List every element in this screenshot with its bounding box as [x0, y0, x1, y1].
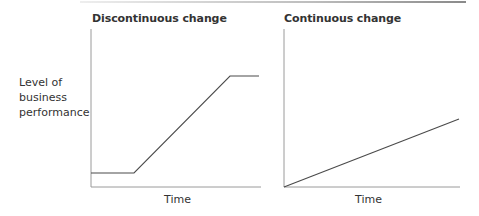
continuous-chart — [284, 29, 460, 187]
continuous-performance-line — [284, 119, 459, 187]
continuous-x-axis-label: Time — [355, 193, 382, 206]
diagram-canvas — [0, 0, 479, 216]
discontinuous-chart — [91, 29, 261, 187]
discontinuous-performance-line — [91, 76, 259, 173]
discontinuous-x-axis-label: Time — [164, 193, 191, 206]
